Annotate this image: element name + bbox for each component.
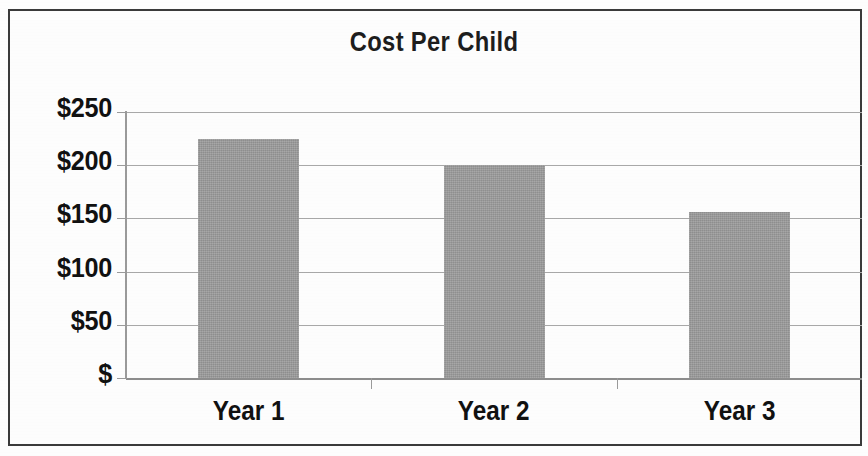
x-axis-category-label: Year 2 — [384, 396, 605, 427]
y-axis-tick-label: $ — [22, 358, 112, 390]
gridline — [126, 378, 862, 380]
bar — [689, 212, 790, 378]
y-axis-tick-label: $250 — [22, 92, 112, 124]
y-axis-tick-label: $100 — [22, 252, 112, 284]
chart-title: Cost Per Child — [52, 27, 816, 58]
y-axis-tick-label: $150 — [22, 198, 112, 230]
x-axis-tick — [617, 378, 618, 389]
y-axis-tick — [117, 218, 127, 219]
y-axis-tick — [117, 378, 127, 379]
y-axis-tick-label: $200 — [22, 145, 112, 177]
x-axis-tick — [371, 378, 372, 389]
y-axis-tick-label: $50 — [22, 305, 112, 337]
gridline — [126, 112, 862, 113]
chart-figure: Cost Per Child $$50$100$150$200$250 Year… — [0, 0, 868, 456]
y-axis-tick — [117, 112, 127, 113]
y-axis-tick — [117, 325, 127, 326]
x-axis-category-label: Year 1 — [138, 396, 359, 427]
bar — [198, 139, 299, 378]
bar — [444, 165, 545, 378]
y-axis-tick — [117, 272, 127, 273]
y-axis-labels: $$50$100$150$200$250 — [12, 0, 112, 456]
x-axis-category-label: Year 3 — [629, 396, 850, 427]
y-axis-tick — [117, 165, 127, 166]
